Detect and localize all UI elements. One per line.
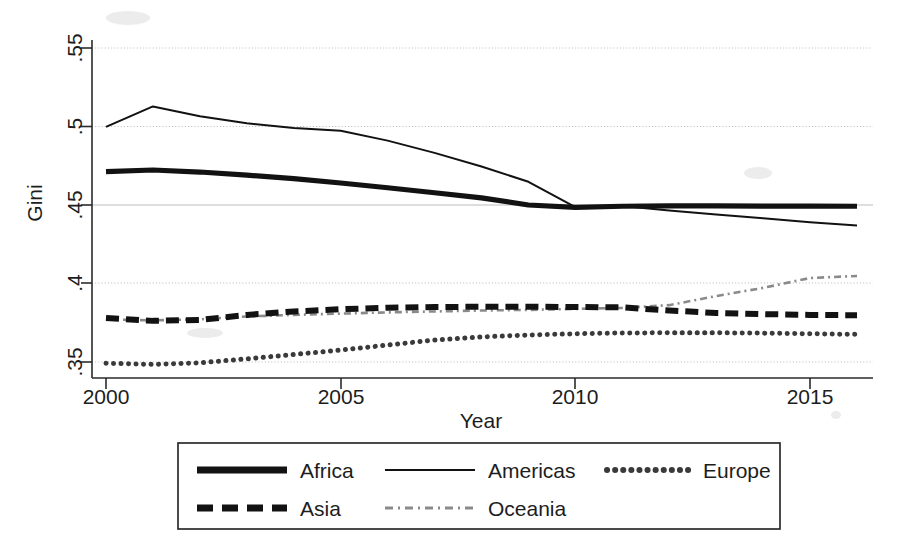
y-tick-label-035: .35 <box>63 347 86 376</box>
series-line-africa <box>106 170 857 207</box>
series-group <box>106 106 857 364</box>
x-tick-label-2000: 2000 <box>83 385 130 408</box>
legend-label-oceania: Oceania <box>488 497 567 520</box>
series-line-oceania <box>106 276 857 320</box>
x-tick-label-2005: 2005 <box>318 385 365 408</box>
y-tick-labels: .55 .5 .45 .4 .35 <box>63 33 86 376</box>
y-axis-title: Gini <box>23 184 46 221</box>
legend: Africa Americas Europe Asia Oceania <box>178 443 780 529</box>
legend-label-africa: Africa <box>300 459 354 482</box>
y-tick-label-055: .55 <box>63 33 86 62</box>
x-axis-title: Year <box>460 409 502 432</box>
legend-label-americas: Americas <box>488 459 576 482</box>
gini-line-chart: .55 .5 .45 .4 .35 Gini 2000 2005 2010 20… <box>0 0 906 551</box>
series-line-europe <box>106 333 857 365</box>
series-line-asia <box>106 307 857 321</box>
legend-border <box>178 443 780 529</box>
chart-canvas: .55 .5 .45 .4 .35 Gini 2000 2005 2010 20… <box>0 0 906 551</box>
legend-label-europe: Europe <box>703 459 771 482</box>
x-tick-labels: 2000 2005 2010 2015 <box>83 385 834 408</box>
x-tick-label-2015: 2015 <box>787 385 834 408</box>
y-tick-label-05: .5 <box>63 118 86 136</box>
legend-label-asia: Asia <box>300 497 341 520</box>
y-tick-label-04: .4 <box>63 274 86 292</box>
y-tick-label-045: .45 <box>63 190 86 219</box>
x-tick-label-2010: 2010 <box>552 385 599 408</box>
